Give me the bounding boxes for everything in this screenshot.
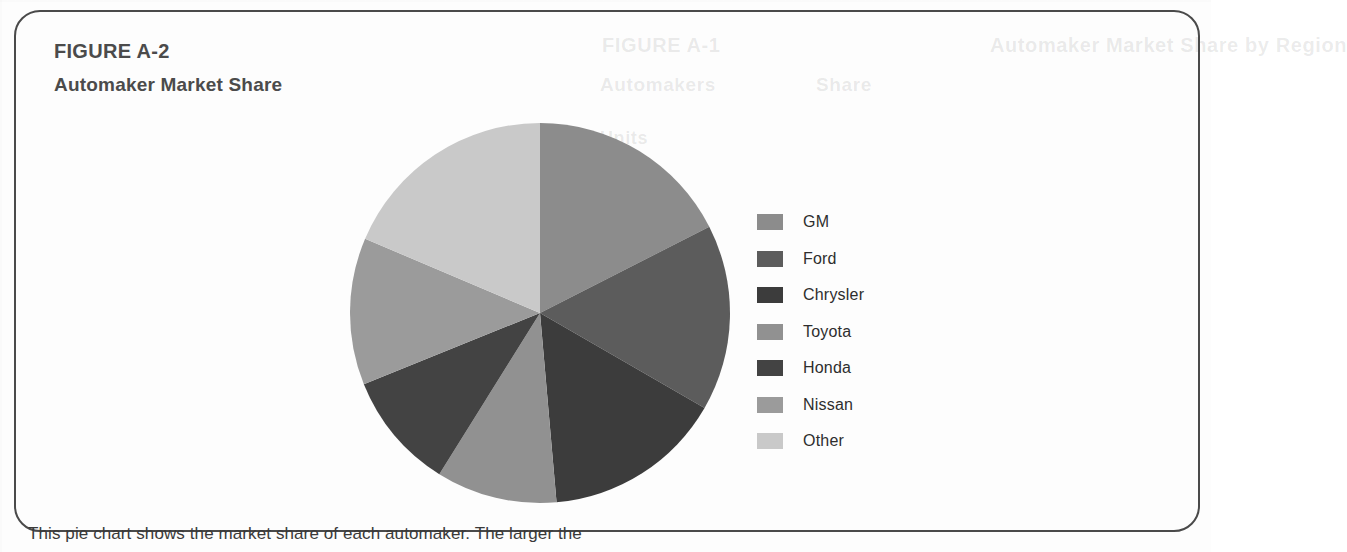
legend-item: Other xyxy=(757,423,947,460)
legend-item: Nissan xyxy=(757,387,947,424)
legend-item-label: Chrysler xyxy=(803,286,864,304)
legend-item-label: Toyota xyxy=(803,323,851,341)
legend-item: Toyota xyxy=(757,314,947,351)
legend-item: Honda xyxy=(757,350,947,387)
legend-item: Ford xyxy=(757,241,947,278)
legend-swatch-icon xyxy=(757,397,783,413)
legend-swatch-icon xyxy=(757,360,783,376)
legend-item-label: Honda xyxy=(803,359,851,377)
legend-item-label: Ford xyxy=(803,250,837,268)
pie-chart xyxy=(345,118,735,508)
legend-item-label: Other xyxy=(803,432,844,450)
legend-swatch-icon xyxy=(757,214,783,230)
chart-area: GMFordChryslerToyotaHondaNissanOther xyxy=(16,12,1202,534)
legend-item: GM xyxy=(757,204,947,241)
legend-swatch-icon xyxy=(757,433,783,449)
chart-legend: GMFordChryslerToyotaHondaNissanOther xyxy=(757,204,947,460)
legend-item-label: GM xyxy=(803,213,829,231)
legend-swatch-icon xyxy=(757,251,783,267)
figure-caption: This pie chart shows the market share of… xyxy=(28,524,582,544)
figure-container: FIGURE A-2 Automaker Market Share GMFord… xyxy=(14,10,1200,532)
legend-swatch-icon xyxy=(757,324,783,340)
legend-item-label: Nissan xyxy=(803,396,853,414)
legend-swatch-icon xyxy=(757,287,783,303)
legend-item: Chrysler xyxy=(757,277,947,314)
